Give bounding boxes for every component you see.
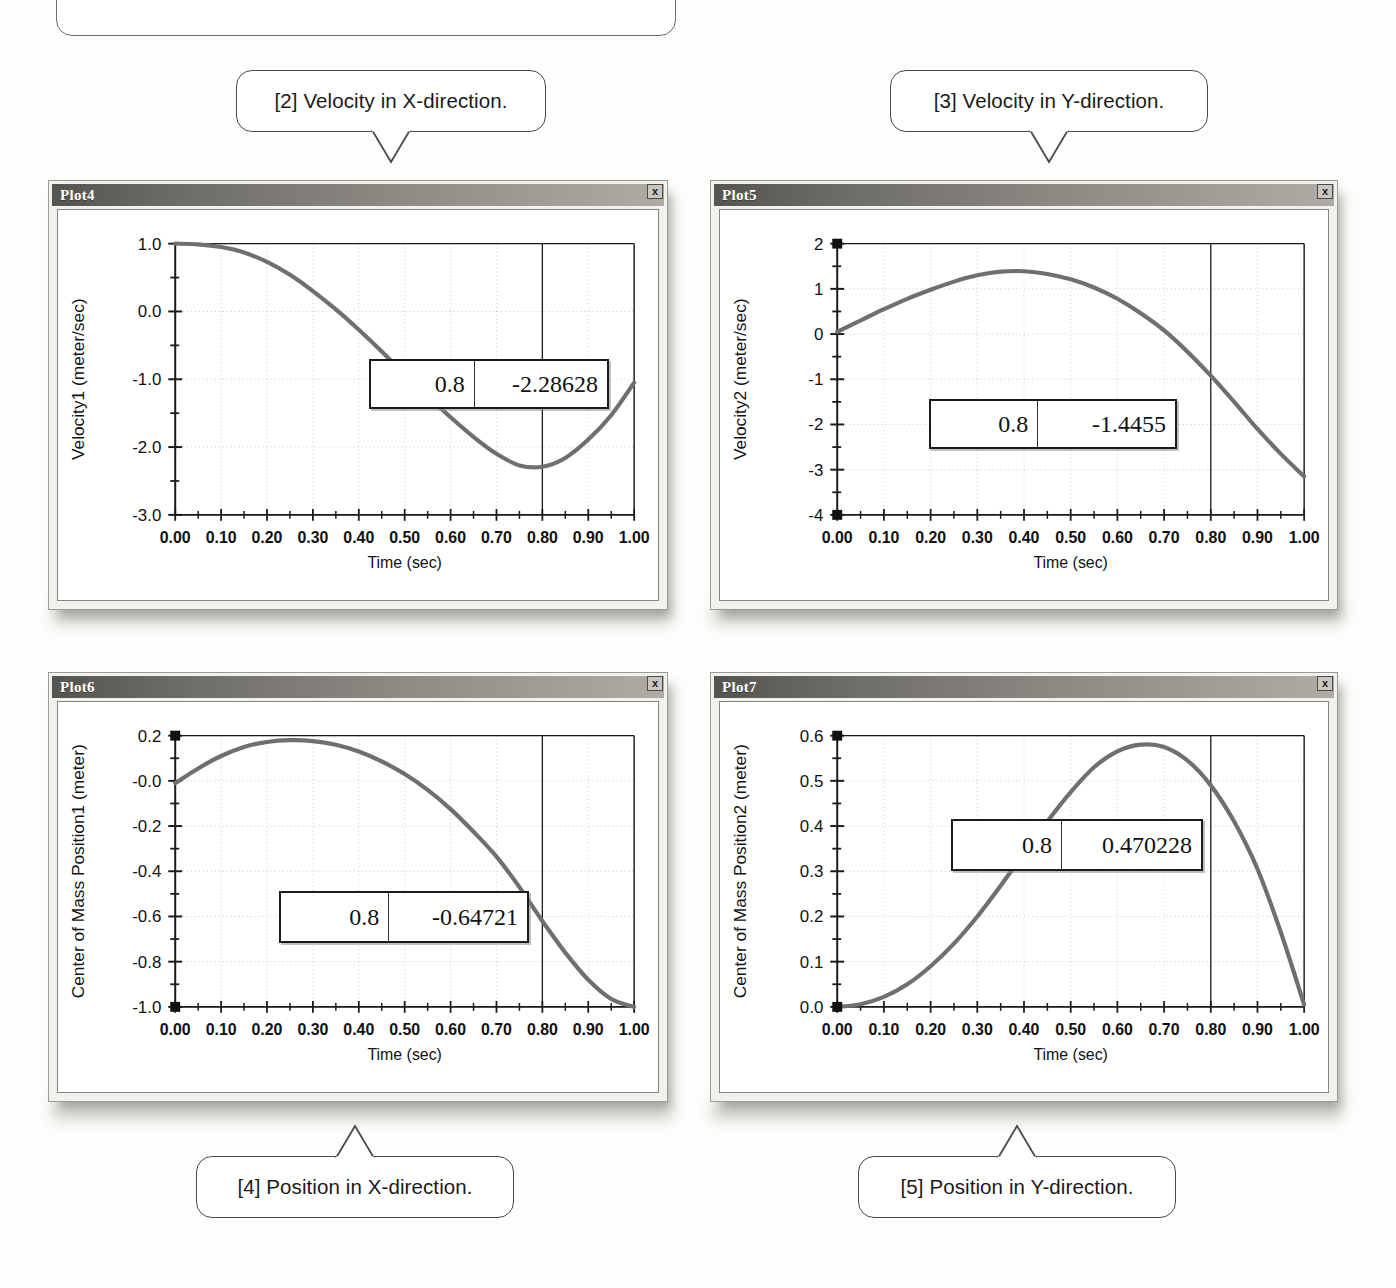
callout-position-y-label: [5] Position in Y-direction. (901, 1175, 1134, 1199)
svg-text:-1: -1 (808, 370, 823, 389)
svg-text:0.2: 0.2 (800, 907, 823, 926)
callout-tail-icon (996, 1124, 1038, 1158)
titlebar-plot5[interactable]: Plot5 (714, 184, 1334, 206)
window-title-plot5: Plot5 (714, 187, 757, 204)
svg-text:1: 1 (814, 280, 823, 299)
svg-text:1.00: 1.00 (1289, 529, 1320, 546)
close-button-plot4[interactable]: x (647, 184, 663, 199)
svg-text:0.20: 0.20 (915, 1021, 946, 1038)
window-shadow-1 (52, 608, 672, 624)
svg-text:-0.6: -0.6 (132, 907, 161, 926)
svg-text:0.6: 0.6 (800, 727, 823, 746)
svg-text:-2: -2 (808, 415, 823, 434)
svg-text:0.80: 0.80 (1195, 1021, 1226, 1038)
svg-text:0.0: 0.0 (800, 998, 823, 1017)
svg-text:0.60: 0.60 (435, 1021, 466, 1038)
svg-text:0.3: 0.3 (800, 862, 823, 881)
svg-text:0.50: 0.50 (389, 1021, 420, 1038)
svg-text:-3: -3 (808, 461, 823, 480)
readout-x-plot7: 0.8 (953, 821, 1062, 869)
svg-text:0.80: 0.80 (527, 529, 558, 546)
readout-plot5: 0.8 -1.4455 (929, 399, 1177, 449)
svg-text:2: 2 (814, 235, 823, 254)
svg-text:0.1: 0.1 (800, 953, 823, 972)
readout-y-plot4: -2.28628 (475, 361, 607, 407)
svg-text:1.00: 1.00 (619, 529, 650, 546)
svg-text:-0.0: -0.0 (132, 772, 161, 791)
svg-text:-3.0: -3.0 (132, 506, 161, 525)
plot-window-plot7[interactable]: Plot7 x 0.60.50.40.30.20.10.00.000.100.2… (710, 672, 1338, 1102)
cropped-top-callout: pression ( p ), ( ), g ) and p [ ] (56, 0, 676, 36)
readout-x-plot5: 0.8 (931, 401, 1038, 447)
callout-tail-icon (370, 130, 412, 164)
svg-text:-0.8: -0.8 (132, 953, 161, 972)
svg-text:0.2: 0.2 (138, 727, 161, 746)
svg-text:Velocity2 (meter/sec): Velocity2 (meter/sec) (730, 298, 750, 460)
window-shadow-4 (712, 1102, 1342, 1120)
svg-text:0.70: 0.70 (481, 1021, 512, 1038)
svg-text:0.30: 0.30 (962, 1021, 993, 1038)
titlebar-plot4[interactable]: Plot4 (52, 184, 664, 206)
svg-text:0: 0 (814, 325, 823, 344)
svg-text:0.00: 0.00 (160, 1021, 191, 1038)
svg-text:-1.0: -1.0 (132, 370, 161, 389)
svg-text:0.60: 0.60 (435, 529, 466, 546)
titlebar-plot7[interactable]: Plot7 (714, 676, 1334, 698)
svg-text:0.70: 0.70 (481, 529, 512, 546)
readout-x-plot6: 0.8 (281, 893, 389, 941)
svg-text:0.00: 0.00 (160, 529, 191, 546)
svg-text:0.0: 0.0 (138, 302, 161, 321)
svg-text:Time (sec): Time (sec) (367, 1046, 441, 1063)
window-title-plot7: Plot7 (714, 679, 757, 696)
svg-text:0.90: 0.90 (1242, 529, 1273, 546)
callout-velocity-y: [3] Velocity in Y-direction. (890, 70, 1208, 132)
svg-text:0.20: 0.20 (252, 1021, 283, 1038)
svg-text:-0.4: -0.4 (132, 862, 161, 881)
plot-window-plot5[interactable]: Plot5 x 210-1-2-3-40.000.100.200.300.400… (710, 180, 1338, 610)
svg-text:0.40: 0.40 (343, 529, 374, 546)
svg-text:0.00: 0.00 (822, 529, 853, 546)
callout-position-x: [4] Position in X-direction. (196, 1156, 514, 1218)
readout-plot4: 0.8 -2.28628 (369, 359, 609, 409)
svg-text:0.30: 0.30 (297, 1021, 328, 1038)
svg-text:0.80: 0.80 (1195, 529, 1226, 546)
plot-window-plot6[interactable]: Plot6 x 0.2-0.0-0.2-0.4-0.6-0.8-1.00.000… (48, 672, 668, 1102)
close-button-plot7[interactable]: x (1317, 676, 1333, 691)
svg-text:0.4: 0.4 (800, 817, 823, 836)
readout-plot6: 0.8 -0.64721 (279, 891, 529, 943)
svg-text:-4: -4 (808, 506, 823, 525)
callout-velocity-x: [2] Velocity in X-direction. (236, 70, 546, 132)
svg-text:0.90: 0.90 (573, 529, 604, 546)
svg-text:0.20: 0.20 (915, 529, 946, 546)
svg-text:0.00: 0.00 (822, 1021, 853, 1038)
readout-y-plot6: -0.64721 (389, 893, 527, 941)
svg-text:0.5: 0.5 (800, 772, 823, 791)
svg-text:0.40: 0.40 (1009, 529, 1040, 546)
svg-text:0.30: 0.30 (962, 529, 993, 546)
svg-text:-1.0: -1.0 (132, 998, 161, 1017)
close-button-plot5[interactable]: x (1317, 184, 1333, 199)
svg-text:Time (sec): Time (sec) (367, 554, 441, 571)
callout-position-x-label: [4] Position in X-direction. (237, 1175, 472, 1199)
svg-text:0.50: 0.50 (1055, 529, 1086, 546)
svg-text:0.80: 0.80 (527, 1021, 558, 1038)
svg-text:Velocity1 (meter/sec): Velocity1 (meter/sec) (68, 298, 88, 460)
svg-text:0.50: 0.50 (389, 529, 420, 546)
window-title-plot6: Plot6 (52, 679, 95, 696)
svg-text:0.90: 0.90 (573, 1021, 604, 1038)
svg-text:1.00: 1.00 (619, 1021, 650, 1038)
svg-text:0.60: 0.60 (1102, 1021, 1133, 1038)
callout-tail-icon (334, 1124, 376, 1158)
svg-text:Time (sec): Time (sec) (1033, 554, 1107, 571)
callout-velocity-x-label: [2] Velocity in X-direction. (275, 89, 508, 113)
callout-velocity-y-label: [3] Velocity in Y-direction. (934, 89, 1165, 113)
svg-text:Center of Mass Position2 (mete: Center of Mass Position2 (meter) (730, 744, 750, 998)
plot-window-plot4[interactable]: Plot4 x 1.00.0-1.0-2.0-3.00.000.100.200.… (48, 180, 668, 610)
svg-text:0.10: 0.10 (206, 529, 237, 546)
svg-text:0.40: 0.40 (343, 1021, 374, 1038)
window-title-plot4: Plot4 (52, 187, 95, 204)
titlebar-plot6[interactable]: Plot6 (52, 676, 664, 698)
window-shadow-3 (52, 1102, 672, 1120)
close-button-plot6[interactable]: x (647, 676, 663, 691)
svg-text:0.50: 0.50 (1055, 1021, 1086, 1038)
